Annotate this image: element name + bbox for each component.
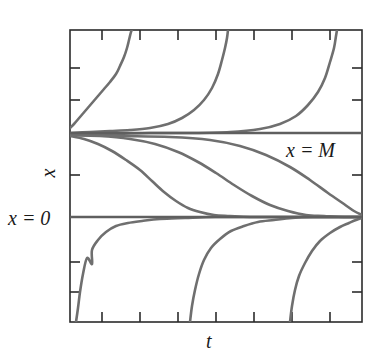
equilibrium-lower-label: x = 0 [8,208,50,228]
equilibrium-upper-label: x = M [286,140,335,160]
solution-curves-figure [0,0,388,355]
x-axis-label: t [206,331,212,351]
figure-root: x t x = M x = 0 [0,0,388,355]
y-axis-label: x [38,169,58,178]
